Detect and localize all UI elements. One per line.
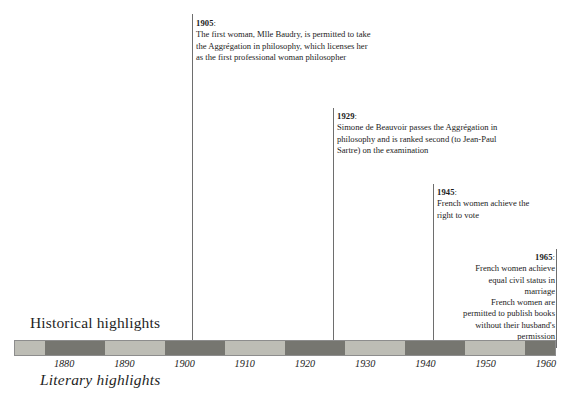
leader-line-1905 [192,14,193,348]
decade-segment [525,341,555,355]
decade-segment [15,341,45,355]
event-line: without their husband's [463,320,555,331]
event-line: French women are [463,297,555,308]
event-line: as the first professional woman philosop… [196,52,371,63]
event-line: equal civil status in [463,275,555,286]
year-tick-1940: 1940 [415,358,435,369]
event-annotation-1905: 1905: The first woman, Mlle Baudry, is p… [196,18,371,63]
event-line: marriage [463,286,555,297]
event-year-colon-1945: : [455,187,457,197]
event-line: Sartre) on the examination [337,145,497,156]
timeline-figure: 1905: The first woman, Mlle Baudry, is p… [0,0,566,417]
event-body-1945: French women achieve the right to vote [437,198,529,221]
event-line: philosophy and is ranked second (to Jean… [337,134,497,145]
event-line: The first woman, Mlle Baudry, is permitt… [196,29,371,40]
year-tick-1930: 1930 [355,358,375,369]
decade-segment [225,341,285,355]
year-tick-1920: 1920 [295,358,315,369]
year-tick-1950: 1950 [475,358,495,369]
year-tick-1900: 1900 [174,358,194,369]
event-annotation-1945: 1945: French women achieve the right to … [437,187,529,221]
event-line: French women achieve [463,263,555,274]
event-year-colon-1905: : [214,18,216,28]
event-line: right to vote [437,210,529,221]
event-year-1929: 1929 [337,111,355,121]
event-year-1905: 1905 [196,18,214,28]
leader-line-1929 [333,108,334,348]
leader-line-1965 [556,249,557,348]
year-tick-1910: 1910 [235,358,255,369]
event-line: French women achieve the [437,198,529,209]
leader-line-1945 [433,184,434,348]
year-tick-1890: 1890 [114,358,134,369]
event-body-1905: The first woman, Mlle Baudry, is permitt… [196,29,371,63]
event-annotation-1929: 1929: Simone de Beauvoir passes the Aggr… [337,111,497,156]
decade-segment [45,341,105,355]
year-tick-labels: 188018901900191019201930194019501960 [0,358,566,374]
decade-segment [165,341,225,355]
event-year-1965: 1965 [535,252,553,262]
event-year-1945: 1945 [437,187,455,197]
year-tick-1960: 1960 [536,358,556,369]
event-line: permitted to publish books [463,308,555,319]
decade-segment [345,341,405,355]
year-tick-1880: 1880 [54,358,74,369]
event-year-colon-1929: : [355,111,357,121]
event-line: the Aggrégation in philosophy, which lic… [196,41,371,52]
decade-segment [405,341,465,355]
decade-segment [465,341,525,355]
decade-segment [105,341,165,355]
event-body-1929: Simone de Beauvoir passes the Aggrégatio… [337,122,497,156]
decade-bar [14,340,556,356]
event-line: Simone de Beauvoir passes the Aggrégatio… [337,122,497,133]
historical-highlights-label: Historical highlights [30,314,160,332]
event-annotation-1965: 1965: French women achieve equal civil s… [463,252,555,342]
event-body-1965: French women achieve equal civil status … [463,263,555,342]
event-year-colon-1965: : [553,252,555,262]
decade-segment [285,341,345,355]
